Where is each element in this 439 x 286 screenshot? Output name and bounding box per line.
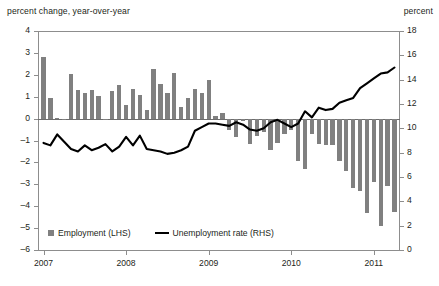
right-axis-tick-labels: 181614121086420 [407, 0, 435, 286]
chart-legend: Employment (LHS) Unemployment rate (RHS) [48, 228, 274, 238]
right-tick [400, 128, 404, 129]
right-tick-label: 2 [407, 220, 433, 230]
legend-label-unemployment: Unemployment rate (RHS) [173, 228, 274, 238]
plot-area [38, 31, 400, 250]
right-tick [400, 104, 404, 105]
left-axis-tick-labels: 43210–1–2–3–4–5–6 [4, 0, 30, 286]
right-tick [400, 153, 404, 154]
legend-item-unemployment: Unemployment rate (RHS) [155, 228, 274, 238]
right-tick-label: 0 [407, 244, 433, 254]
left-tick-label: –3 [4, 178, 30, 188]
x-tick-label: 2010 [271, 258, 311, 268]
left-tick [34, 250, 38, 251]
left-tick-label: 0 [4, 113, 30, 123]
square-swatch-icon [48, 230, 54, 236]
x-tick [291, 251, 292, 255]
left-tick-label: 2 [4, 69, 30, 79]
x-tick [209, 251, 210, 255]
legend-label-employment: Employment (LHS) [58, 228, 131, 238]
x-tick [374, 251, 375, 255]
left-tick-label: 3 [4, 47, 30, 57]
legend-item-employment: Employment (LHS) [48, 228, 131, 238]
right-tick-label: 8 [407, 147, 433, 157]
x-tick-label: 2007 [24, 258, 64, 268]
right-tick-label: 4 [407, 195, 433, 205]
left-tick-label: –1 [4, 135, 30, 145]
right-tick-label: 10 [407, 122, 433, 132]
right-tick [400, 226, 404, 227]
right-tick [400, 31, 404, 32]
left-tick-label: 1 [4, 91, 30, 101]
plot-frame-bottom [38, 250, 400, 251]
x-tick-label: 2009 [189, 258, 229, 268]
left-tick-label: 4 [4, 25, 30, 35]
right-tick-label: 12 [407, 98, 433, 108]
right-tick [400, 55, 404, 56]
left-tick-label: –5 [4, 222, 30, 232]
x-tick-label: 2011 [354, 258, 394, 268]
x-tick [126, 251, 127, 255]
right-tick [400, 177, 404, 178]
left-tick-label: –6 [4, 244, 30, 254]
unemployment-line-series [38, 31, 400, 250]
x-tick-label: 2008 [106, 258, 146, 268]
left-tick-label: –4 [4, 200, 30, 210]
right-tick [400, 80, 404, 81]
right-tick [400, 201, 404, 202]
right-tick-label: 18 [407, 25, 433, 35]
x-tick [44, 251, 45, 255]
right-tick-label: 6 [407, 171, 433, 181]
right-tick-label: 14 [407, 74, 433, 84]
left-tick-label: –2 [4, 156, 30, 166]
chart-figure: percent change, year-over-year percent 4… [0, 0, 439, 286]
right-tick [400, 250, 404, 251]
right-tick-label: 16 [407, 49, 433, 59]
line-swatch-icon [155, 232, 169, 234]
